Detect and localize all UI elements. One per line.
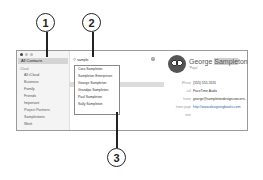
sidebar-item-all-contacts[interactable]: All Contacts [18, 58, 68, 64]
sidebar-item[interactable]: Project Partners [24, 107, 50, 114]
field-label: call [167, 89, 193, 93]
field-label: note [167, 113, 193, 117]
sidebar-groups: All iCloud Business Family Friends Impor… [24, 72, 50, 128]
zoom-button[interactable] [30, 53, 33, 56]
contact-nickname: "Papa" [189, 66, 198, 70]
sidebar-item[interactable]: Work [24, 121, 50, 128]
field-label: home page [167, 105, 193, 109]
field-value[interactable]: (555) 555-5555 [193, 81, 216, 85]
field-label: home [167, 97, 193, 101]
name-first: George [189, 58, 214, 65]
callout-2-leader [92, 32, 94, 57]
callout-1: 1 [36, 13, 55, 32]
close-button[interactable] [20, 53, 23, 56]
sidebar-item[interactable]: Business [24, 79, 50, 86]
field-row: iPhone(555) 555-5555 [167, 79, 247, 87]
clear-search-icon[interactable]: × [151, 57, 155, 61]
callout-1-leader [46, 32, 48, 57]
sidebar-item[interactable]: Family [24, 86, 50, 93]
field-row: callFaceTime Audio [167, 87, 247, 95]
contact-card: George Sampleton "Papa" iPhone(555) 555-… [167, 51, 247, 130]
result-item[interactable]: Sampleton Enterprises [75, 73, 119, 80]
contacts-window: All Contacts iCloud All iCloud Business … [16, 50, 248, 131]
sidebar-item[interactable]: Friends [24, 93, 50, 100]
search-icon: ⚲ [73, 58, 76, 62]
sidebar-group-heading: iCloud [20, 67, 29, 71]
field-label: iPhone [167, 81, 193, 85]
contact-name: George Sampleton [189, 58, 248, 65]
result-item[interactable]: Grandpa Sampleton [75, 87, 119, 94]
result-item[interactable]: Paul Sampleton [75, 94, 119, 101]
search-field[interactable]: ⚲sample [73, 57, 153, 63]
minimize-button[interactable] [25, 53, 28, 56]
facetime-audio-buttons[interactable]: FaceTime Audio [193, 89, 217, 93]
search-input[interactable]: sample [77, 58, 89, 62]
sidebar-item[interactable]: All iCloud [24, 72, 50, 79]
callout-3: 3 [107, 148, 126, 167]
name-match-highlight: Sample [214, 58, 238, 65]
sidebar: All Contacts iCloud All iCloud Business … [17, 51, 70, 130]
result-item[interactable]: Sally Sampleton [75, 101, 119, 108]
avatar [168, 55, 186, 73]
result-item[interactable]: Cora Sampleton [75, 66, 119, 73]
result-item-selected[interactable]: George Sampleton [75, 80, 119, 87]
search-results-dropdown: Cora Sampleton Sampleton Enterprises Geo… [74, 65, 120, 115]
window-controls [20, 53, 33, 56]
sidebar-item[interactable]: Important [24, 100, 50, 107]
callout-2: 2 [82, 13, 101, 32]
field-row: homegeorge@sampletondesignconcern... [167, 95, 247, 103]
field-row: note [167, 111, 247, 119]
field-value[interactable]: george@sampletondesignconcern... [193, 97, 247, 101]
homepage-link[interactable]: http://www.designingbooks.com [193, 105, 241, 109]
sidebar-item[interactable]: Samplestons [24, 114, 50, 121]
field-row: home pagehttp://www.designingbooks.com [167, 103, 247, 111]
name-rest: ton [238, 58, 248, 65]
callout-3-leader [116, 112, 118, 148]
contact-fields: iPhone(555) 555-5555 callFaceTime Audio … [167, 79, 247, 119]
